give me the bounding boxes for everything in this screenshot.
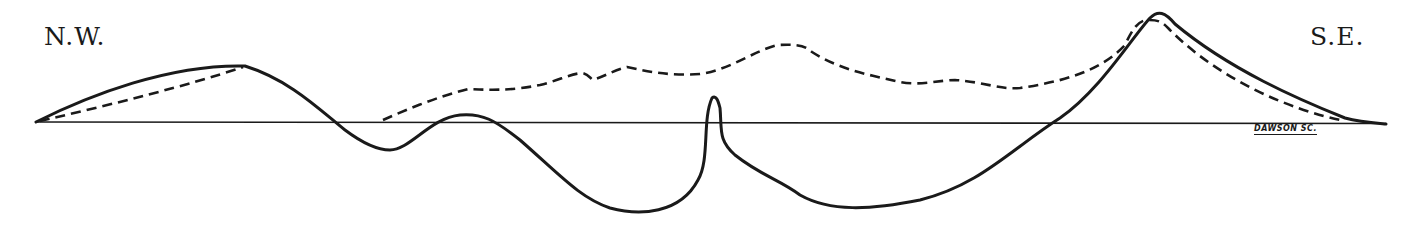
baseline-line: [36, 122, 1386, 124]
profile-drawing: [0, 0, 1422, 225]
cross-section-diagram: N.W. S.E. DAWSON SC.: [0, 0, 1422, 225]
solid-profile-line: [36, 13, 1386, 212]
dashed-profile-left: [40, 67, 243, 121]
dashed-profile-main: [383, 20, 1345, 121]
